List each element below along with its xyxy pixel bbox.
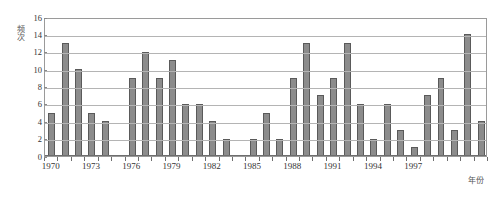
y-tick-mark	[44, 104, 47, 105]
y-tick-mark	[44, 122, 47, 123]
bar	[102, 121, 109, 156]
y-tick-label: 2	[28, 135, 42, 144]
x-tick-label: 1976	[111, 161, 151, 172]
gridline	[45, 88, 486, 89]
x-tick-label: 1997	[393, 161, 433, 172]
gridline	[45, 123, 486, 124]
gridline	[45, 140, 486, 141]
bar	[303, 43, 310, 156]
y-tick-mark	[44, 35, 47, 36]
bar	[48, 113, 55, 156]
bar	[397, 130, 404, 156]
bar	[156, 78, 163, 156]
bar	[250, 139, 257, 156]
bar	[317, 95, 324, 156]
y-tick-mark	[44, 52, 47, 53]
bar	[357, 104, 364, 156]
bar	[88, 113, 95, 156]
x-tick-label: 1991	[313, 161, 353, 172]
y-tick-label: 16	[28, 14, 42, 23]
gridline	[45, 53, 486, 54]
bar	[424, 95, 431, 156]
bar	[209, 121, 216, 156]
bar	[344, 43, 351, 156]
bar	[276, 139, 283, 156]
bar	[478, 121, 485, 156]
x-tick-label: 1979	[152, 161, 192, 172]
bar	[223, 139, 230, 156]
y-tick-mark	[44, 157, 47, 158]
bar	[384, 104, 391, 156]
bar	[438, 78, 445, 156]
bar	[129, 78, 136, 156]
bar	[169, 60, 176, 156]
gridline	[45, 105, 486, 106]
y-tick-mark	[44, 70, 47, 71]
bar-chart: 频次 0246810121416 19701973197619791982198…	[0, 0, 503, 198]
bar	[75, 69, 82, 156]
bar	[370, 139, 377, 156]
y-tick-label: 4	[28, 118, 42, 127]
x-axis-baseline	[45, 155, 486, 156]
x-tick-label: 1994	[353, 161, 393, 172]
x-axis-title: 年份	[468, 176, 484, 185]
plot-area	[44, 18, 487, 157]
x-tick-label: 1973	[71, 161, 111, 172]
bar	[290, 78, 297, 156]
y-tick-label: 12	[28, 48, 42, 57]
bar	[62, 43, 69, 156]
x-tick-label: 1985	[232, 161, 272, 172]
y-axis-tick-labels: 0246810121416	[26, 18, 42, 157]
bar	[182, 104, 189, 156]
x-tick-label: 1988	[272, 161, 312, 172]
gridline	[45, 36, 486, 37]
y-tick-label: 6	[28, 100, 42, 109]
bar	[196, 104, 203, 156]
bar	[330, 78, 337, 156]
y-tick-label: 8	[28, 83, 42, 92]
y-tick-mark	[44, 87, 47, 88]
x-tick-label: 1970	[31, 161, 71, 172]
gridline	[45, 71, 486, 72]
y-tick-label: 0	[28, 153, 42, 162]
y-tick-label: 10	[28, 66, 42, 75]
bar	[263, 113, 270, 156]
y-tick-mark	[44, 139, 47, 140]
x-axis-tick-labels: 1970197319761979198219851988199119941997	[0, 161, 503, 177]
y-tick-label: 14	[28, 31, 42, 40]
bar	[451, 130, 458, 156]
y-tick-mark	[44, 18, 47, 19]
x-tick-label: 1982	[192, 161, 232, 172]
